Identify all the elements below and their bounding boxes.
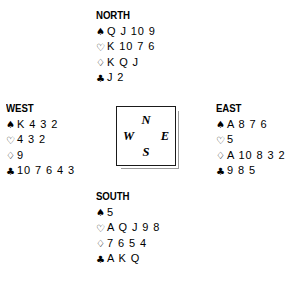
bridge-deal-diagram: NORTH ♠ Q J 10 9 ♡ K 10 7 6 ♢ K Q J ♣ J … — [0, 0, 294, 285]
hand-east-hearts-row: ♡ 5 — [216, 132, 286, 148]
club-icon: ♣ — [6, 165, 17, 180]
hand-north-label: NORTH — [96, 9, 151, 21]
hand-west-clubs: 10 7 6 4 3 — [17, 163, 75, 178]
heart-icon: ♡ — [96, 222, 107, 237]
hand-south-clubs: A K Q — [107, 251, 140, 266]
hand-north: NORTH ♠ Q J 10 9 ♡ K 10 7 6 ♢ K Q J ♣ J … — [96, 9, 156, 86]
compass-south-label: S — [143, 146, 150, 159]
hand-south-hearts-row: ♡ A Q J 9 8 — [96, 220, 160, 236]
hand-east-label: EAST — [216, 102, 280, 114]
club-icon: ♣ — [96, 253, 107, 268]
hand-north-clubs: J 2 — [107, 70, 124, 85]
hand-south: SOUTH ♠ 5 ♡ A Q J 9 8 ♢ 7 6 5 4 ♣ A K Q — [96, 190, 160, 267]
spade-icon: ♠ — [96, 25, 107, 40]
spade-icon: ♠ — [6, 118, 17, 133]
heart-icon: ♡ — [6, 134, 17, 149]
club-icon: ♣ — [216, 165, 227, 180]
hand-east-diamonds: A 10 8 3 2 — [227, 148, 286, 163]
hand-west-label: WEST — [6, 102, 69, 114]
spade-icon: ♠ — [216, 118, 227, 133]
hand-east: EAST ♠ A 8 7 6 ♡ 5 ♢ A 10 8 3 2 ♣ 9 8 5 — [216, 102, 286, 179]
compass-east-label: E — [161, 130, 169, 143]
hand-south-spades: 5 — [107, 205, 114, 220]
hand-west-hearts: 4 3 2 — [17, 132, 46, 147]
hand-west-spades: K 4 3 2 — [17, 117, 58, 132]
compass-west-label: W — [123, 130, 134, 143]
hand-east-spades: A 8 7 6 — [227, 117, 268, 132]
hand-east-clubs: 9 8 5 — [227, 163, 256, 178]
hand-west: WEST ♠ K 4 3 2 ♡ 4 3 2 ♢ 9 ♣ 10 7 6 4 3 — [6, 102, 75, 179]
hand-north-diamonds: K Q J — [107, 55, 139, 70]
hand-south-diamonds: 7 6 5 4 — [107, 236, 147, 251]
hand-south-diamonds-row: ♢ 7 6 5 4 — [96, 236, 160, 252]
hand-north-spades: Q J 10 9 — [107, 24, 156, 39]
hand-north-spades-row: ♠ Q J 10 9 — [96, 24, 156, 40]
compass-box: N W E S — [116, 106, 176, 166]
hand-south-clubs-row: ♣ A K Q — [96, 251, 160, 267]
hand-west-diamonds-row: ♢ 9 — [6, 148, 75, 164]
diamond-icon: ♢ — [6, 149, 17, 164]
hand-east-diamonds-row: ♢ A 10 8 3 2 — [216, 148, 286, 164]
heart-icon: ♡ — [216, 134, 227, 149]
hand-north-hearts-row: ♡ K 10 7 6 — [96, 39, 156, 55]
diamond-icon: ♢ — [216, 149, 227, 164]
hand-east-hearts: 5 — [227, 132, 234, 147]
club-icon: ♣ — [96, 72, 107, 87]
heart-icon: ♡ — [96, 41, 107, 56]
hand-north-hearts: K 10 7 6 — [107, 39, 155, 54]
hand-east-clubs-row: ♣ 9 8 5 — [216, 163, 286, 179]
hand-south-hearts: A Q J 9 8 — [107, 220, 160, 235]
diamond-icon: ♢ — [96, 56, 107, 71]
hand-north-clubs-row: ♣ J 2 — [96, 70, 156, 86]
compass-north-label: N — [141, 114, 150, 127]
diamond-icon: ♢ — [96, 237, 107, 252]
hand-west-spades-row: ♠ K 4 3 2 — [6, 117, 75, 133]
hand-south-spades-row: ♠ 5 — [96, 205, 160, 221]
spade-icon: ♠ — [96, 206, 107, 221]
hand-west-clubs-row: ♣ 10 7 6 4 3 — [6, 163, 75, 179]
hand-west-hearts-row: ♡ 4 3 2 — [6, 132, 75, 148]
hand-north-diamonds-row: ♢ K Q J — [96, 55, 156, 71]
hand-south-label: SOUTH — [96, 190, 155, 202]
hand-west-diamonds: 9 — [17, 148, 24, 163]
hand-east-spades-row: ♠ A 8 7 6 — [216, 117, 286, 133]
